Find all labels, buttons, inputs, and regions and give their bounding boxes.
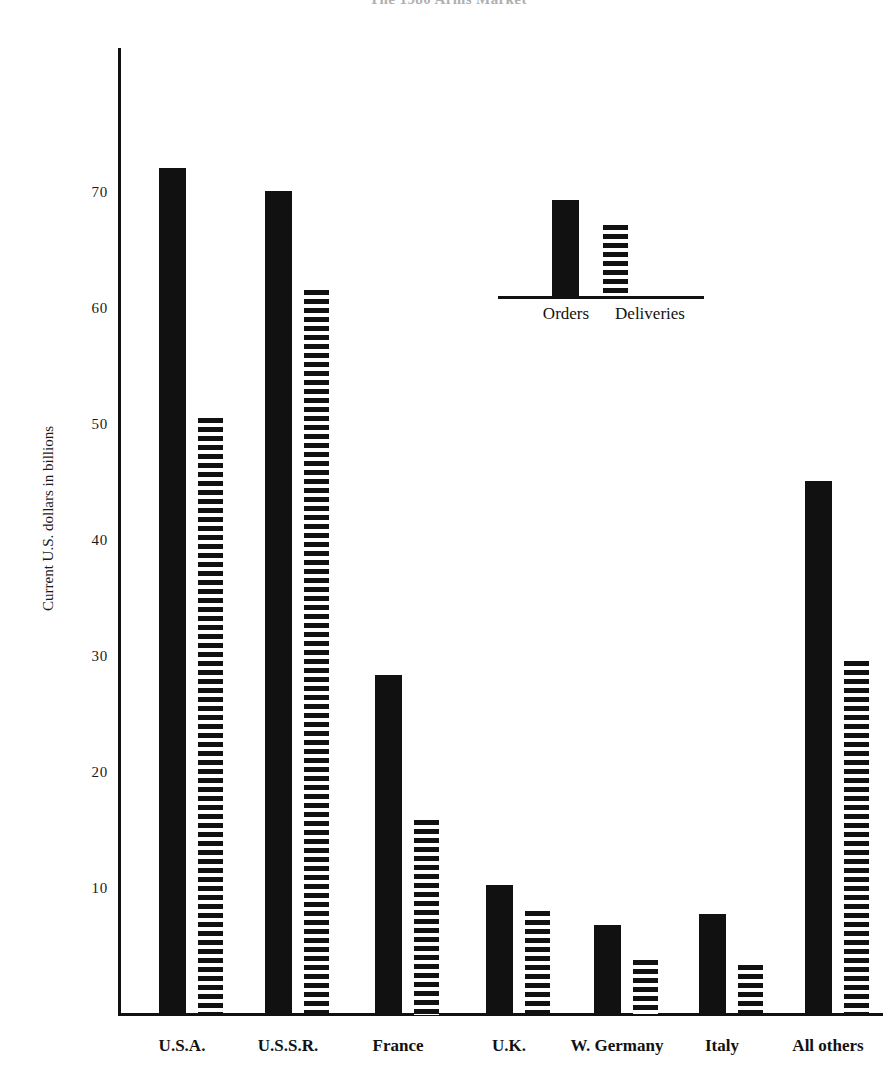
x-tick-label-usa: U.S.A.	[159, 1036, 206, 1056]
bar-orders-france	[375, 675, 402, 1015]
x-tick-label-uk: U.K.	[492, 1036, 526, 1056]
bar-orders-all-others	[805, 481, 832, 1015]
bar-deliveries-all-others	[844, 661, 869, 1015]
chart-plot-area: Current U.S. dollars in billions 70 60 5…	[0, 0, 896, 1090]
bar-orders-w-germany	[594, 925, 621, 1015]
bar-deliveries-u-k	[525, 911, 550, 1015]
bar-orders-italy	[699, 914, 726, 1015]
x-tick-label-italy: Italy	[705, 1036, 739, 1056]
bar-orders-u-s-s-r	[265, 191, 292, 1015]
x-tick-label-france: France	[373, 1036, 424, 1056]
bar-deliveries-italy	[738, 965, 763, 1015]
bars-layer	[0, 0, 896, 1015]
legend-baseline	[498, 296, 704, 299]
legend-label-deliveries: Deliveries	[615, 304, 685, 324]
bar-orders-u-s-a	[159, 168, 186, 1015]
bar-deliveries-w-germany	[633, 960, 658, 1015]
x-tick-label-ussr: U.S.S.R.	[258, 1036, 318, 1056]
legend-swatch-deliveries	[603, 225, 628, 296]
bar-deliveries-u-s-a	[198, 418, 223, 1015]
bar-orders-u-k	[486, 885, 513, 1015]
chart-legend: Orders Deliveries	[498, 176, 714, 324]
x-tick-label-w-germany: W. Germany	[571, 1036, 664, 1056]
x-tick-label-all-others: All others	[792, 1036, 863, 1056]
legend-swatch-orders	[552, 200, 579, 296]
legend-label-orders: Orders	[543, 304, 589, 324]
bar-deliveries-france	[414, 820, 439, 1015]
bar-deliveries-u-s-s-r	[304, 290, 329, 1015]
